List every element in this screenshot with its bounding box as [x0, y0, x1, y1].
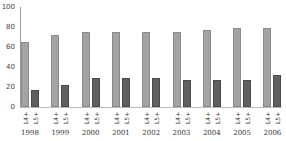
- series-label: L5+: [62, 112, 69, 124]
- bar-l5plus-2002: [152, 78, 160, 107]
- series-label: L5+: [244, 112, 251, 124]
- x-category-label: 2001: [109, 129, 133, 137]
- bar-l5plus-2003: [183, 80, 191, 107]
- bar-l5plus-2000: [92, 78, 100, 107]
- bar-l4plus-1998: [21, 42, 29, 107]
- x-category-label: 2002: [139, 129, 163, 137]
- bar-l4plus-2006: [263, 28, 271, 107]
- x-category-label: 2003: [170, 129, 194, 137]
- series-label: L4+: [22, 112, 29, 124]
- bar-l4plus-2001: [112, 32, 120, 107]
- y-tick-label: 40: [0, 63, 15, 71]
- x-category-label: 1999: [48, 129, 72, 137]
- bar-l4plus-2004: [203, 30, 211, 107]
- series-label: L4+: [174, 112, 181, 124]
- series-label: L5+: [274, 112, 281, 124]
- bar-l5plus-1999: [61, 85, 69, 107]
- y-tick-label: 0: [0, 103, 15, 111]
- x-category-label: 2005: [230, 129, 254, 137]
- bar-l4plus-2005: [233, 28, 241, 107]
- y-tick-label: 80: [0, 23, 15, 31]
- series-label: L4+: [113, 112, 120, 124]
- bar-l5plus-1998: [31, 90, 39, 107]
- series-label: L4+: [143, 112, 150, 124]
- x-axis: [20, 107, 282, 108]
- bar-l5plus-2004: [213, 80, 221, 107]
- bar-chart: 020406080100 L4+L5+1998L4+L5+1999L4+L5+2…: [0, 0, 286, 141]
- series-label: L5+: [184, 112, 191, 124]
- series-label: L5+: [153, 112, 160, 124]
- x-category-label: 2000: [79, 129, 103, 137]
- series-label: L4+: [83, 112, 90, 124]
- y-tick-label: 20: [0, 83, 15, 91]
- y-tick-label: 100: [0, 3, 15, 11]
- bar-l5plus-2001: [122, 78, 130, 107]
- series-label: L5+: [32, 112, 39, 124]
- bar-l5plus-2005: [243, 80, 251, 107]
- series-label: L4+: [264, 112, 271, 124]
- series-label: L4+: [52, 112, 59, 124]
- bar-l4plus-2003: [173, 32, 181, 107]
- series-label: L5+: [123, 112, 130, 124]
- series-label: L4+: [204, 112, 211, 124]
- y-tick-label: 60: [0, 43, 15, 51]
- x-category-label: 2006: [260, 129, 284, 137]
- x-category-label: 2004: [200, 129, 224, 137]
- series-label: L5+: [93, 112, 100, 124]
- x-category-label: 1998: [18, 129, 42, 137]
- bar-l4plus-2000: [82, 32, 90, 107]
- bar-l5plus-2006: [273, 75, 281, 107]
- series-label: L4+: [234, 112, 241, 124]
- bar-l4plus-2002: [142, 32, 150, 107]
- series-label: L5+: [214, 112, 221, 124]
- bar-l4plus-1999: [51, 35, 59, 107]
